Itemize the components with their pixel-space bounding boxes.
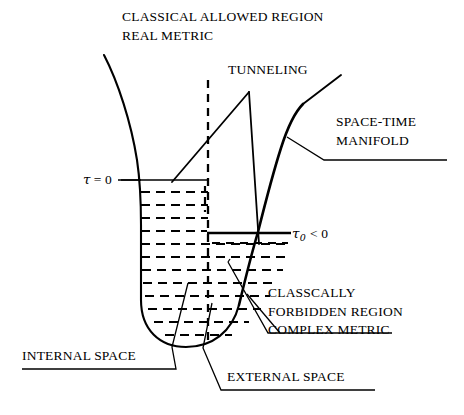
label-tau-sub-zero-less-than-zero: τ0< 0 — [292, 226, 328, 243]
tau-zero-relation: = 0 — [94, 172, 112, 187]
title-block: CLASSICAL ALLOWED REGION REAL METRIC — [122, 7, 324, 45]
tau-sub-zero-relation: < 0 — [310, 226, 328, 241]
label-spacetime-line-1: SPACE-TIME — [336, 112, 416, 131]
label-external-space: EXTERNAL SPACE — [227, 369, 345, 385]
tau-subscript: 0 — [300, 232, 306, 243]
label-internal-space: INTERNAL SPACE — [22, 348, 136, 364]
label-spacetime-line-2: MANIFOLD — [336, 131, 416, 150]
label-forbidden-line-3: COMPLEX METRIC — [268, 321, 403, 340]
tau-symbol: τ — [292, 225, 300, 241]
label-classically-forbidden-region: CLASSCALLY FORBIDDEN REGION COMPLEX METR… — [268, 284, 403, 340]
tau-symbol: τ — [83, 171, 91, 187]
label-forbidden-line-1: CLASSCALLY — [268, 284, 403, 303]
label-tunneling: TUNNELING — [228, 62, 308, 78]
label-forbidden-line-2: FORBIDDEN REGION — [268, 303, 403, 322]
label-tau-equals-zero: τ= 0 — [83, 172, 112, 188]
title-line-real-metric: REAL METRIC — [122, 26, 324, 45]
label-spacetime-manifold: SPACE-TIME MANIFOLD — [336, 112, 416, 150]
title-line-classical-allowed-region: CLASSICAL ALLOWED REGION — [122, 7, 324, 26]
